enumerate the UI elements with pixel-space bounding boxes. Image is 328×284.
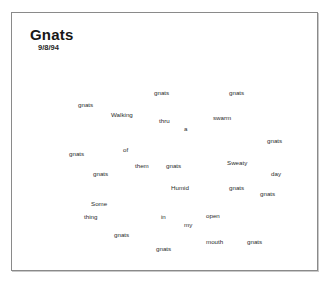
page-frame: Gnats 9/8/94 gnatsgnatsgnatsWalkingthrus…	[11, 12, 318, 271]
poem-word: thru	[159, 118, 170, 124]
scanned-page: Gnats 9/8/94 gnatsgnatsgnatsWalkingthrus…	[0, 0, 328, 284]
poem-word: gnats	[156, 246, 171, 252]
poem-word: gnats	[154, 90, 169, 96]
poem-word: my	[184, 222, 192, 228]
poem-word: gnats	[267, 138, 282, 144]
poem-word: gnats	[229, 185, 244, 191]
poem-word: gnats	[260, 191, 275, 197]
poem-word: Sweaty	[227, 160, 247, 166]
poem-word: Humid	[171, 185, 189, 191]
poem-word: Some	[91, 201, 107, 207]
poem-word: gnats	[93, 171, 108, 177]
poem-word: gnats	[229, 90, 244, 96]
poem-word: thing	[84, 214, 97, 220]
poem-word: gnats	[166, 163, 181, 169]
poem-word: in	[161, 214, 166, 220]
poem-word: a	[184, 126, 187, 132]
poem-word: mouth	[206, 239, 223, 245]
poem-word: them	[135, 163, 149, 169]
poem-word: open	[206, 213, 220, 219]
poem-word: gnats	[114, 232, 129, 238]
poem-word: Walking	[111, 112, 133, 118]
poem-word: day	[271, 171, 281, 177]
scattered-word-field: gnatsgnatsgnatsWalkingthruswarmagnatsofg…	[12, 13, 317, 270]
poem-word: of	[123, 147, 128, 153]
poem-word: gnats	[78, 102, 93, 108]
poem-word: swarm	[213, 115, 231, 121]
poem-word: gnats	[247, 239, 262, 245]
poem-word: gnats	[69, 151, 84, 157]
